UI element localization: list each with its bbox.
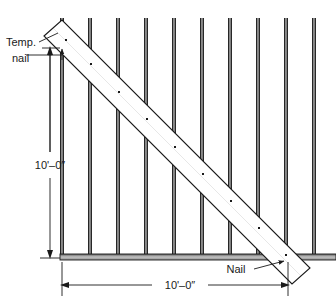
nail-dot (202, 173, 204, 175)
wall-framing-figure: Temp. nail 10'–0″ 10'–0″ (0, 0, 336, 305)
temp-nail-label-line2: nail (12, 52, 29, 64)
horizontal-dimension-label: 10'–0″ (165, 279, 196, 291)
nail-dot (258, 227, 260, 229)
nail-label: Nail (227, 263, 246, 275)
stud-10 (312, 18, 316, 255)
stud-6 (200, 18, 204, 255)
nail-dot (230, 200, 232, 202)
vertical-dimension-label: 10'–0″ (35, 159, 66, 171)
stud-9 (284, 18, 288, 255)
bracing-detail-drawing: Temp. nail 10'–0″ 10'–0″ (0, 0, 336, 305)
nail-dot (65, 39, 67, 41)
temp-nail-label-line1: Temp. (6, 36, 36, 48)
nail-dot (174, 146, 176, 148)
nail-dot (285, 254, 287, 256)
nail-dot (118, 91, 120, 93)
nail-dot (90, 63, 92, 65)
nail-dot (146, 118, 148, 120)
stud-3 (116, 18, 120, 255)
